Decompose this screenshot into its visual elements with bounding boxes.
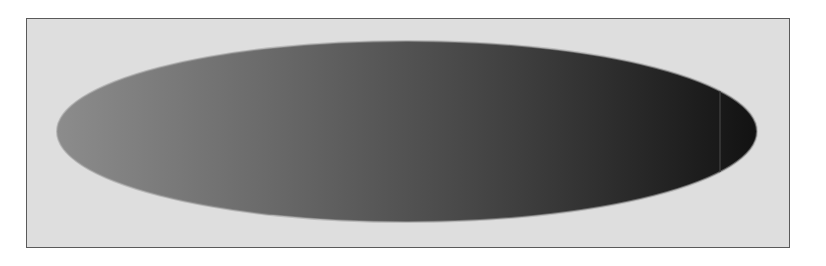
gradient-ellipse bbox=[57, 41, 757, 222]
gradient-ellipse-graphic bbox=[0, 0, 826, 266]
